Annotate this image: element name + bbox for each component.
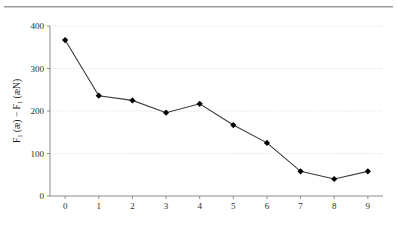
svg-text:F1 (æ) − F1 (æN): F1 (æ) − F1 (æN) <box>12 79 23 143</box>
gridlines <box>50 26 383 154</box>
x-axis-tick-label: 6 <box>265 201 270 211</box>
y-axis-title-mid: (æ) − <box>12 109 23 134</box>
data-point-marker <box>331 176 337 182</box>
data-point-marker <box>62 37 68 43</box>
figure-container: 0100200300400 0123456789 F1 (æ) − F1 (æN… <box>0 0 397 238</box>
y-axis-tick-label: 400 <box>31 21 45 31</box>
data-markers <box>62 37 371 182</box>
y-axis-tick-label: 100 <box>31 149 45 159</box>
x-axis-tick-label: 8 <box>332 201 337 211</box>
data-point-marker <box>365 168 371 174</box>
x-axis-tick-label: 3 <box>164 201 169 211</box>
y-axis-title-end: (æN) <box>12 79 23 101</box>
data-point-marker <box>129 97 135 103</box>
x-axis-tick-label: 7 <box>298 201 303 211</box>
x-axis-tick-label: 5 <box>231 201 236 211</box>
data-point-marker <box>163 110 169 116</box>
y-axis-tick-label: 200 <box>31 106 45 116</box>
data-point-marker <box>197 101 203 107</box>
x-axis-tick-labels: 0123456789 <box>63 201 371 211</box>
x-axis-tick-label: 2 <box>130 201 135 211</box>
line-chart: 0100200300400 0123456789 F1 (æ) − F1 (æN… <box>0 0 397 238</box>
y-axis-title: F1 (æ) − F1 (æN) <box>12 79 23 143</box>
data-line <box>65 40 368 179</box>
data-point-marker <box>96 93 102 99</box>
y-axis-tick-label: 300 <box>31 64 45 74</box>
y-axis-tick-labels: 0100200300400 <box>31 21 45 201</box>
data-point-marker <box>230 122 236 128</box>
x-axis-tick-label: 4 <box>197 201 202 211</box>
x-axis-tick-label: 9 <box>366 201 371 211</box>
x-axis-tick-label: 1 <box>97 201 102 211</box>
x-axis-tick-label: 0 <box>63 201 68 211</box>
y-axis-tick-label: 0 <box>40 191 45 201</box>
